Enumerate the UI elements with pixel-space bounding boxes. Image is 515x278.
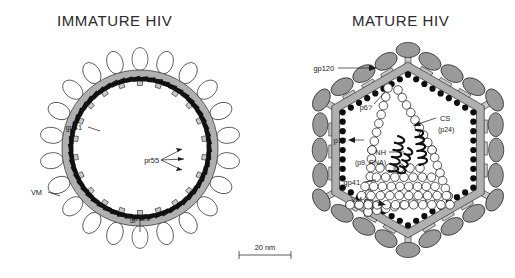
p24-capsid-subunit xyxy=(361,182,370,191)
p24-capsid-subunit xyxy=(391,201,400,210)
p24-capsid-subunit xyxy=(381,93,390,102)
p24-capsid-subunit xyxy=(377,110,386,119)
membrane-bilayer-hex xyxy=(332,62,484,238)
mature-virion: gp120 p6? CS (p24) p17 NH (p9, RNA) gp41… xyxy=(309,42,507,257)
label-cs-subunit: (p24) xyxy=(438,126,454,134)
label-pr55: pr55 xyxy=(144,156,159,165)
label-cs: CS xyxy=(440,114,450,123)
leader-gp41-immature xyxy=(88,127,100,131)
label-p6: p6? xyxy=(360,103,372,112)
label-p17: p17 xyxy=(334,136,346,145)
p17-matrix-dot xyxy=(462,104,468,110)
p17-matrix-dot xyxy=(421,213,427,219)
gp120-head xyxy=(396,242,420,257)
label-nh-subunit: (p9, RNA) xyxy=(355,159,386,167)
mature-viral-membrane xyxy=(332,62,484,238)
p24-capsid-subunit xyxy=(395,191,404,200)
p24-capsid-subunit xyxy=(431,182,440,191)
p17-matrix-dot xyxy=(413,76,419,82)
gp120-head xyxy=(216,151,241,170)
p24-capsid-subunit xyxy=(391,173,400,182)
p24-capsid-subunit xyxy=(381,173,390,182)
p24-capsid-subunit xyxy=(422,182,431,191)
p17-matrix-dot xyxy=(446,95,452,101)
p24-capsid-subunit xyxy=(409,173,418,182)
p17-matrix-dot xyxy=(372,90,378,96)
p24-capsid-subunit xyxy=(386,191,395,200)
p24-capsid-subunit xyxy=(437,201,446,210)
p17-matrix-dot xyxy=(397,76,403,82)
p24-capsid-subunit xyxy=(418,173,427,182)
p24-capsid-subunit xyxy=(442,191,451,200)
p24-capsid-subunit xyxy=(433,191,442,200)
gp120-head xyxy=(396,42,420,57)
p24-capsid-subunit xyxy=(376,191,385,200)
immature-virion: gp41 pr55 VM gp120 xyxy=(31,48,241,249)
gp120-head xyxy=(39,126,64,145)
p17-matrix-dot xyxy=(397,218,403,224)
p24-capsid-subunit xyxy=(396,182,405,191)
gp120-head xyxy=(489,138,504,162)
p17-matrix-dot xyxy=(340,119,346,125)
p17-matrix-dot xyxy=(454,194,460,200)
gp120-head xyxy=(482,86,507,114)
p17-matrix-dot xyxy=(340,166,346,172)
p17-matrix-dot xyxy=(470,185,476,191)
label-vm-mature: VM xyxy=(351,195,362,204)
p24-capsid-subunit xyxy=(369,182,378,191)
p17-matrix-dot xyxy=(429,86,435,92)
label-gp41-mature: gp41 xyxy=(344,178,360,187)
p24-capsid-subunit xyxy=(387,182,396,191)
p24-capsid-subunit xyxy=(423,191,432,200)
p17-matrix-dot xyxy=(470,175,476,181)
p17-matrix-dot xyxy=(470,147,476,153)
p24-capsid-subunit xyxy=(427,173,436,182)
gp120-head xyxy=(216,126,241,145)
p24-capsid-subunit xyxy=(378,182,387,191)
p24-capsid-subunit xyxy=(409,201,418,210)
hiv-structure-figure: IMMATURE HIV MATURE HIV gp41 pr55 VM gp xyxy=(0,0,515,278)
p17-matrix-dot xyxy=(340,156,346,162)
p17-matrix-dot xyxy=(470,137,476,143)
p17-matrix-dot xyxy=(470,119,476,125)
label-gp41-immature: gp41 xyxy=(66,123,82,132)
p24-capsid-subunit xyxy=(379,101,388,110)
label-vm-immature: VM xyxy=(31,188,42,197)
p17-matrix-dot xyxy=(405,222,411,228)
p17-matrix-dot xyxy=(364,95,370,101)
leader-p17 xyxy=(348,137,364,143)
gp120-head xyxy=(488,113,503,137)
p17-matrix-dot xyxy=(340,147,346,153)
gp120-head xyxy=(309,86,334,114)
p24-capsid-subunit xyxy=(446,201,455,210)
p17-matrix-dot xyxy=(438,90,444,96)
p17-matrix-dot xyxy=(405,71,411,77)
p24-capsid-subunit xyxy=(367,191,376,200)
gp120-head xyxy=(313,113,328,137)
gp120-head xyxy=(312,138,327,162)
leader-pr55-fan xyxy=(161,148,184,171)
p24-capsid-subunit xyxy=(404,191,413,200)
label-gp120-mature: gp120 xyxy=(313,64,334,73)
p24-capsid-subunit xyxy=(414,191,423,200)
p24-capsid-subunit xyxy=(428,201,437,210)
p17-matrix-dot xyxy=(470,166,476,172)
membrane-bilayer-ring xyxy=(62,70,218,226)
gp120-head xyxy=(39,151,64,170)
p24-capsid-subunit xyxy=(364,201,373,210)
gp120-head xyxy=(482,186,507,214)
p17-matrix-dot xyxy=(470,128,476,134)
p17-matrix-dot xyxy=(348,104,354,110)
gp120-head xyxy=(132,48,148,71)
p24-capsid-subunit xyxy=(418,201,427,210)
p17-matrix-dot xyxy=(470,156,476,162)
p17-matrix-dot xyxy=(413,218,419,224)
p24-capsid-subunit xyxy=(400,201,409,210)
p17-matrix-dot xyxy=(421,81,427,87)
label-gp120-immature: gp120 xyxy=(130,214,151,223)
gp120-head xyxy=(313,163,328,187)
p17-matrix-dot xyxy=(470,109,476,115)
gp120-head xyxy=(488,163,503,187)
p17-matrix-dot xyxy=(340,128,346,134)
gp120-head xyxy=(309,186,334,214)
